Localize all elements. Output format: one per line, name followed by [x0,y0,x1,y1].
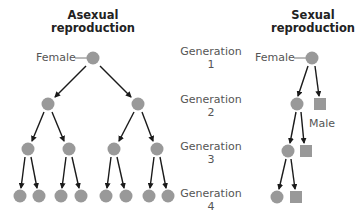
female-node [291,98,304,111]
male-node [300,145,312,157]
female-node [42,98,55,111]
female-node [151,143,164,156]
sexual-arrows [279,66,319,189]
female-node [22,143,35,156]
female-node [14,190,27,203]
male-node [290,191,302,203]
female-node [132,98,145,111]
asexual-arrows [21,66,166,188]
female-node [162,190,175,203]
female-node [100,190,113,203]
female-node [108,143,121,156]
female-node [63,143,76,156]
female-node [75,190,88,203]
female-node [306,52,319,65]
female-node [271,191,284,204]
female-node [282,145,295,158]
male-node [314,98,326,110]
female-node [55,190,68,203]
female-node [33,190,46,203]
sexual-nodes [271,52,327,204]
female-node [143,190,156,203]
female-node [87,52,100,65]
female-node [120,190,133,203]
